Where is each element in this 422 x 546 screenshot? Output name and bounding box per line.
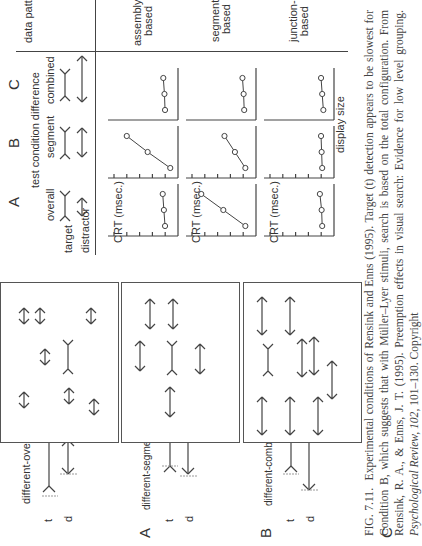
- caption-journal: Psychological Review, 102,: [408, 409, 421, 536]
- predicted-crt-charts: [0, 0, 422, 546]
- caption-text: Experimental conditions of Rensink and E…: [363, 10, 406, 536]
- rotated-figure-page: A different-overall t d B C: [0, 0, 422, 546]
- caption-text-end: 101–130. Copyright: [408, 312, 421, 405]
- figure-caption: FIG. 7.11. Experimental conditions of Re…: [362, 10, 422, 536]
- caption-fig-label: FIG. 7.11.: [363, 488, 376, 536]
